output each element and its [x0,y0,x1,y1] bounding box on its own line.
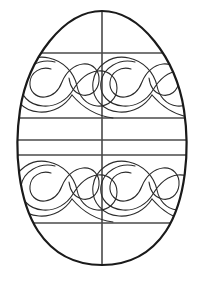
coloring-page-canvas: Black and white outline drawing of an Ea… [0,0,203,285]
easter-egg-illustration [0,0,203,285]
